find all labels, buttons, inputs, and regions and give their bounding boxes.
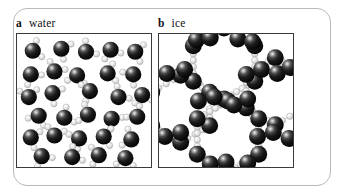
- oxygen-atom: [129, 109, 145, 125]
- oxygen-atom: [100, 65, 116, 81]
- oxygen-atom: [253, 61, 270, 78]
- hydrogen-atom: [287, 113, 293, 120]
- hydrogen-atom: [93, 51, 99, 57]
- hydrogen-atom: [79, 157, 85, 163]
- hydrogen-atom: [190, 57, 197, 64]
- hydrogen-atom: [130, 82, 136, 88]
- oxygen-atom: [53, 41, 69, 57]
- panel-water-caption: awater: [16, 15, 152, 31]
- hydrogen-atom: [63, 104, 69, 110]
- hydrogen-atom: [82, 38, 88, 44]
- hydrogen-atom: [24, 82, 30, 88]
- oxygen-atom: [31, 108, 47, 124]
- panel-ice-letter: b: [158, 17, 165, 29]
- oxygen-atom: [46, 63, 62, 79]
- oxygen-atom: [25, 43, 41, 59]
- oxygen-atom: [134, 87, 150, 103]
- oxygen-atom: [159, 65, 175, 82]
- hydrogen-atom: [51, 101, 57, 107]
- hydrogen-atom: [25, 115, 31, 121]
- oxygen-atom: [123, 131, 139, 147]
- oxygen-atom: [190, 93, 207, 110]
- oxygen-atom: [80, 107, 96, 123]
- hydrogen-atom: [194, 130, 201, 137]
- oxygen-atom: [64, 149, 80, 165]
- oxygen-atom: [110, 89, 126, 105]
- oxygen-atom: [69, 67, 85, 83]
- panel-ice-box: [158, 33, 294, 168]
- oxygen-atom: [96, 128, 112, 144]
- oxygen-atom: [34, 148, 50, 164]
- oxygen-atom: [117, 150, 133, 166]
- hydrogen-atom: [62, 66, 68, 72]
- oxygen-atom: [206, 89, 223, 106]
- oxygen-atom: [176, 61, 193, 78]
- hydrogen-atom: [123, 114, 129, 120]
- oxygen-atom: [23, 129, 39, 145]
- oxygen-atom: [239, 91, 256, 108]
- oxygen-atom: [267, 49, 284, 66]
- hydrogen-atom: [120, 69, 126, 75]
- hydrogen-atom: [126, 95, 132, 101]
- oxygen-atom: [244, 34, 261, 50]
- hydrogen-atom: [114, 83, 120, 89]
- oxygen-atom: [56, 110, 72, 126]
- panel-water: awater: [16, 15, 152, 168]
- oxygen-atom: [46, 127, 62, 143]
- hydrogen-atom: [31, 145, 37, 151]
- hydrogen-atom: [125, 126, 131, 132]
- figure-root: awater: [0, 0, 345, 196]
- oxygen-atom: [172, 124, 189, 141]
- oxygen-atom: [249, 128, 266, 145]
- oxygen-atom: [91, 147, 107, 163]
- oxygen-atom: [103, 42, 119, 58]
- hydrogen-atom: [81, 101, 87, 107]
- oxygen-atom: [189, 110, 206, 127]
- oxygen-atom: [78, 44, 94, 60]
- oxygen-atom: [82, 83, 98, 99]
- water-molecular-diagram: [17, 34, 151, 167]
- panel-ice-caption: bice: [158, 15, 294, 31]
- oxygen-atom: [238, 66, 255, 83]
- oxygen-atom: [21, 89, 37, 105]
- hydrogen-atom: [38, 72, 44, 78]
- hydrogen-atom: [136, 103, 142, 109]
- ice-molecular-diagram: [159, 34, 293, 167]
- oxygen-atom: [265, 124, 282, 141]
- oxygen-atom: [127, 44, 143, 60]
- oxygen-atom: [23, 66, 39, 82]
- panel-water-box: [16, 33, 152, 168]
- oxygen-atom: [125, 66, 141, 82]
- hydrogen-atom: [118, 50, 124, 56]
- panel-water-label: water: [29, 17, 56, 29]
- panel-ice: bice: [158, 15, 294, 168]
- hydrogen-atom: [49, 155, 55, 161]
- oxygen-atom: [104, 111, 120, 127]
- hydrogen-atom: [194, 136, 201, 143]
- hydrogen-atom: [60, 56, 66, 62]
- hydrogen-atom: [70, 143, 76, 149]
- panel-water-letter: a: [16, 17, 22, 29]
- panel-ice-label: ice: [172, 17, 186, 29]
- oxygen-atom: [44, 85, 60, 101]
